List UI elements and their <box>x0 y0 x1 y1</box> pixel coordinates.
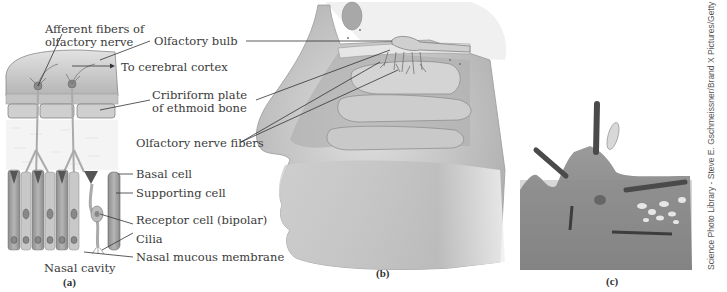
label-nasal-cavity: Nasal cavity <box>44 262 116 275</box>
panel-c-micrograph <box>520 104 692 270</box>
label-basal-cell: Basal cell <box>136 168 192 181</box>
panel-label-b: (b) <box>376 267 389 279</box>
photo-credit: Science Photo Library - Steve E. Gschmei… <box>706 0 716 270</box>
panel-label-c: (c) <box>606 275 618 287</box>
label-receptor-cell: Receptor cell (bipolar) <box>136 214 267 227</box>
label-cribriform-plate-line2: of ethmoid bone <box>152 102 247 115</box>
label-nasal-mucous-membrane: Nasal mucous membrane <box>136 251 284 264</box>
label-cilia: Cilia <box>136 233 163 246</box>
panel-a-illustration <box>6 50 120 254</box>
panel-b-illustration <box>256 2 506 270</box>
label-afferent-fibers-line2: olfactory nerve <box>45 36 133 49</box>
label-supporting-cell: Supporting cell <box>136 187 226 200</box>
label-olfactory-bulb: Olfactory bulb <box>154 35 238 48</box>
panel-label-a: (a) <box>63 276 76 288</box>
label-to-cerebral-cortex: To cerebral cortex <box>121 61 228 74</box>
label-olfactory-nerve-fibers: Olfactory nerve fibers <box>136 137 264 150</box>
